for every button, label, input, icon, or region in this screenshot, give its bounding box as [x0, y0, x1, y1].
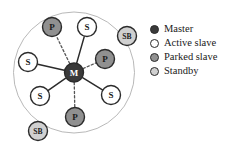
node-label-slave-bottom-left: S — [37, 91, 42, 101]
node-label-parked-right: P — [102, 54, 108, 64]
legend-item-standby: Standby — [150, 64, 240, 78]
piconet-figure: MSSSSPPPSBSB Master Active slave Parked … — [0, 0, 240, 151]
piconet-link-solid — [83, 78, 103, 90]
parked-slave-marker-icon — [150, 53, 159, 62]
node-slave-bottom-left[interactable]: S — [31, 87, 50, 106]
node-label-master: M — [70, 68, 79, 78]
piconet-nodes: MSSSSPPPSBSB — [19, 18, 137, 141]
node-parked-bottom[interactable]: P — [66, 108, 85, 127]
node-label-slave-left: S — [25, 57, 30, 67]
legend-item-master: Master — [150, 22, 240, 36]
node-master[interactable]: M — [65, 63, 84, 82]
piconet-link-dashed — [83, 63, 96, 69]
node-standby-bottom-left[interactable]: SB — [29, 122, 48, 141]
legend-label-parked-slave: Parked slave — [164, 50, 217, 64]
piconet-link-dashed — [56, 36, 69, 63]
node-label-parked-bottom: P — [72, 112, 78, 122]
master-marker-icon — [150, 25, 159, 34]
piconet-link-solid — [38, 64, 65, 70]
node-slave-bottom-right[interactable]: S — [102, 86, 121, 105]
node-label-standby-top-right: SB — [122, 32, 131, 41]
node-parked-right[interactable]: P — [96, 50, 115, 69]
legend-item-active-slave: Active slave — [150, 36, 240, 50]
piconet-link-solid — [77, 37, 85, 63]
node-label-slave-bottom-right: S — [108, 90, 113, 100]
legend-item-parked-slave: Parked slave — [150, 50, 240, 64]
standby-marker-icon — [150, 67, 159, 76]
legend-label-master: Master — [164, 22, 193, 36]
legend: Master Active slave Parked slave Standby — [150, 22, 240, 78]
piconet-link-dashed — [74, 82, 75, 107]
node-slave-top[interactable]: S — [78, 18, 97, 37]
node-slave-left[interactable]: S — [19, 53, 38, 72]
node-parked-top[interactable]: P — [43, 18, 62, 37]
active-slave-marker-icon — [150, 39, 159, 48]
piconet-link-solid — [48, 78, 66, 90]
node-label-standby-bottom-left: SB — [33, 127, 42, 136]
node-label-slave-top: S — [84, 22, 89, 32]
legend-label-standby: Standby — [164, 64, 198, 78]
node-standby-top-right[interactable]: SB — [118, 27, 137, 46]
legend-label-active-slave: Active slave — [164, 36, 216, 50]
node-label-parked-top: P — [49, 22, 55, 32]
